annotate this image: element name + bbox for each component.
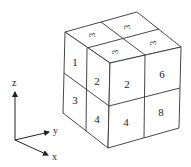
right-label: 8 [158,106,164,118]
top-label: 3 [110,49,120,54]
axes [15,92,49,155]
x-axis-label: x [52,151,57,162]
left-label: 3 [72,94,78,106]
right-label: 2 [124,78,130,90]
x-axis-arrow [15,140,48,155]
cube-diagram: 3 3 3 3 1 2 3 4 2 6 4 8 z y x [0,0,191,167]
top-label: 3 [122,24,132,29]
z-axis-label: z [12,77,17,88]
left-label: 1 [72,56,78,68]
top-label: 3 [148,40,158,45]
left-label: 2 [94,75,100,87]
y-axis-label: y [53,125,58,136]
right-label: 6 [159,68,165,80]
left-label: 4 [94,113,100,125]
right-label: 4 [123,116,129,128]
top-label: 3 [87,32,97,37]
cube [63,12,181,148]
y-axis-arrow [15,132,49,140]
